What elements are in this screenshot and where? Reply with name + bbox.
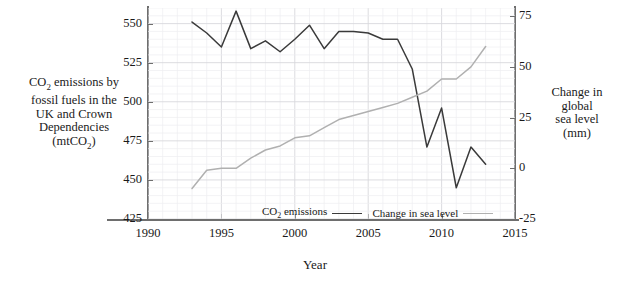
y-tick-right--25: -25 xyxy=(519,211,553,226)
y-axis-left-ticks: 425450475500525550 xyxy=(108,8,142,219)
legend-item-sea-level: Change in sea level xyxy=(372,207,493,219)
legend-label-co2-emissions: CO2 emissions xyxy=(262,205,327,220)
y-tickmark-right-0 xyxy=(510,168,515,169)
x-tick-2000: 2000 xyxy=(269,226,321,241)
y-axis-right-ticks: -250255075 xyxy=(519,8,553,219)
legend-item-co2-emissions: CO2 emissions xyxy=(262,205,362,220)
y-tickmark-left-475 xyxy=(148,141,153,142)
y-tick-left-550: 550 xyxy=(108,16,142,31)
y-tick-left-500: 500 xyxy=(108,94,142,109)
y-tick-left-450: 450 xyxy=(108,172,142,187)
x-tick-1990: 1990 xyxy=(122,226,174,241)
y-tick-left-525: 525 xyxy=(108,55,142,70)
y-tickmark-left-550 xyxy=(148,24,153,25)
legend-swatch-co2-emissions xyxy=(332,213,362,214)
y-tick-right-25: 25 xyxy=(519,110,553,125)
chart-svg xyxy=(148,8,515,219)
x-tick-2015: 2015 xyxy=(489,226,541,241)
y-tickmark-right-75 xyxy=(510,16,515,17)
y-tickmark-left-525 xyxy=(148,63,153,64)
chart-plot-area xyxy=(148,8,515,219)
legend-swatch-sea-level xyxy=(463,213,493,214)
y-tick-left-475: 475 xyxy=(108,133,142,148)
legend-label-sea-level: Change in sea level xyxy=(372,207,458,219)
y-tick-right-0: 0 xyxy=(519,160,553,175)
x-tick-1995: 1995 xyxy=(195,226,247,241)
y-tickmark-right--25 xyxy=(510,219,515,220)
y-tick-right-50: 50 xyxy=(519,59,553,74)
x-tick-2005: 2005 xyxy=(342,226,394,241)
chart-legend: CO2 emissions Change in sea level xyxy=(262,206,512,220)
x-tick-2010: 2010 xyxy=(416,226,468,241)
y-tickmark-right-25 xyxy=(510,118,515,119)
y-tickmark-left-425 xyxy=(148,219,153,220)
x-tickmark-2015 xyxy=(515,214,516,219)
y-tickmark-right-50 xyxy=(510,67,515,68)
x-axis-label: Year xyxy=(250,258,380,272)
y-tickmark-left-450 xyxy=(148,180,153,181)
y-tick-right-75: 75 xyxy=(519,8,553,23)
y-tick-left-425: 425 xyxy=(108,211,142,226)
y-tickmark-left-500 xyxy=(148,102,153,103)
